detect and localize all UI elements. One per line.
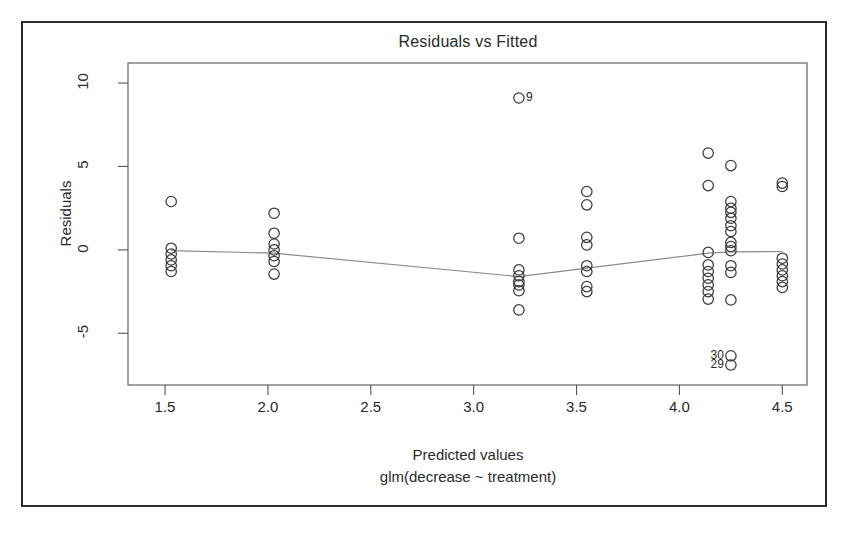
screenshot-root: Residuals vs Fitted Residuals Predicted …	[0, 0, 856, 534]
lowess-smoother-line	[171, 251, 782, 277]
plot-box	[128, 63, 807, 385]
axis-ticks	[118, 83, 782, 395]
plot-canvas	[0, 0, 856, 534]
residuals-vs-fitted-plot: Residuals vs Fitted Residuals Predicted …	[0, 0, 856, 534]
data-points	[166, 93, 788, 370]
